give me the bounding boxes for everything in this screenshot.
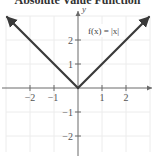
x-tick-label: −1 bbox=[48, 92, 59, 103]
chart-plot: −2 −1 1 2 2 1 −1 −2 y f(x) = |x| bbox=[0, 0, 155, 156]
function-label: f(x) = |x| bbox=[88, 26, 119, 36]
y-tick-label: 1 bbox=[68, 59, 73, 70]
y-axis-label: y bbox=[81, 4, 86, 14]
y-tick-label: −2 bbox=[62, 131, 73, 142]
y-tick-label: −1 bbox=[62, 107, 73, 118]
y-tick-label: 2 bbox=[68, 35, 73, 46]
x-tick-label: −2 bbox=[25, 92, 36, 103]
x-tick-label: 2 bbox=[124, 92, 129, 103]
x-tick-label: 1 bbox=[100, 92, 105, 103]
